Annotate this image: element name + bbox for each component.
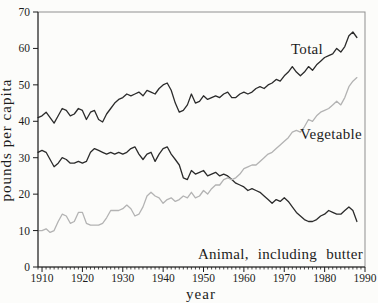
fats-oils-consumption-chart: 1910192019301940195019601970198019900102… [0,0,378,303]
y-tick-label: 0 [24,261,30,273]
x-tick-label: 1990 [354,272,377,284]
y-tick-label: 70 [19,6,31,18]
y-tick-label: 20 [19,188,31,200]
annotation-animal-including-butter: Animal, including butter [198,246,363,262]
annotation-vegetable: Vegetable [300,126,362,142]
x-tick-label: 1940 [152,272,175,284]
series-line-animal-including-butter [38,147,357,222]
x-axis-title: year [186,286,216,302]
x-tick-label: 1910 [31,272,54,284]
y-tick-label: 10 [19,225,31,237]
x-tick-label: 1970 [273,272,296,284]
y-tick-label: 40 [19,115,31,127]
y-tick-label: 50 [19,79,31,91]
y-tick-label: 30 [19,152,31,164]
x-tick-label: 1960 [232,272,255,284]
series-line-vegetable [38,78,357,233]
annotation-total: Total [291,41,323,57]
x-tick-label: 1920 [71,272,94,284]
line-chart-canvas: 1910192019301940195019601970198019900102… [0,0,378,303]
y-tick-label: 60 [19,42,31,54]
x-tick-label: 1930 [111,272,134,284]
x-tick-label: 1980 [313,272,336,284]
y-axis-title: pounds per capita [0,79,14,202]
series-annotations: TotalVegetableAnimal, including butter [198,41,363,262]
x-tick-label: 1950 [192,272,215,284]
